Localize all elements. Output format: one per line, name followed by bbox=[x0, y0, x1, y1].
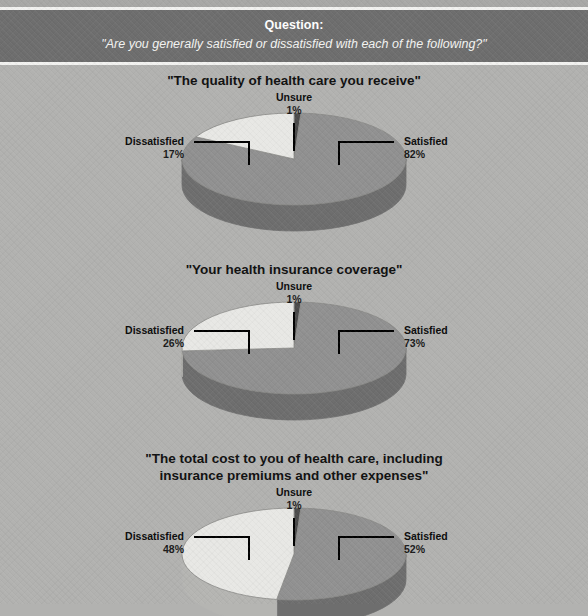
callout-dissatisfied-quality: Dissatisfied 17% bbox=[86, 135, 184, 161]
pie-area-quality: Unsure 1% Dissatisfied 17% Satisfied 82% bbox=[0, 91, 588, 261]
leader-dissatisfied-h-total-cost bbox=[194, 536, 250, 538]
callout-unsure-label: Unsure bbox=[276, 91, 312, 103]
callout-satisfied-label: Satisfied bbox=[404, 324, 448, 336]
callout-dissatisfied-label: Dissatisfied bbox=[125, 530, 184, 542]
leader-satisfied-v-total-cost bbox=[338, 536, 340, 560]
leader-dissatisfied-h-insurance bbox=[194, 330, 250, 332]
callout-satisfied-value: 73% bbox=[404, 337, 502, 350]
chart-block-total-cost: "The total cost to you of health care, i… bbox=[0, 450, 588, 616]
leader-satisfied-h-insurance bbox=[338, 330, 394, 332]
pie-area-total-cost: Unsure 1% Dissatisfied 48% Satisfied 52% bbox=[0, 486, 588, 616]
callout-unsure-insurance: Unsure 1% bbox=[262, 280, 326, 306]
leader-dissatisfied-v-total-cost bbox=[248, 536, 250, 560]
chart-title-insurance: "Your health insurance coverage" bbox=[0, 261, 588, 280]
callout-dissatisfied-value: 26% bbox=[86, 337, 184, 350]
leader-dissatisfied-v-quality bbox=[248, 141, 250, 165]
charts-container: "The quality of health care you receive"… bbox=[0, 72, 588, 616]
callout-dissatisfied-value: 17% bbox=[86, 148, 184, 161]
callout-unsure-quality: Unsure 1% bbox=[262, 91, 326, 117]
callout-satisfied-value: 82% bbox=[404, 148, 502, 161]
chart-title-total-cost-line1: "The total cost to you of health care, i… bbox=[0, 450, 588, 467]
callout-dissatisfied-label: Dissatisfied bbox=[125, 135, 184, 147]
callout-dissatisfied-label: Dissatisfied bbox=[125, 324, 184, 336]
header-top-spacer bbox=[0, 0, 588, 7]
chart-title-quality: "The quality of health care you receive" bbox=[0, 72, 588, 91]
chart-block-insurance: "Your health insurance coverage" Unsure … bbox=[0, 261, 588, 450]
leader-satisfied-v-quality bbox=[338, 141, 340, 165]
callout-unsure-label: Unsure bbox=[276, 280, 312, 292]
pie-area-insurance: Unsure 1% Dissatisfied 26% Satisfied 73% bbox=[0, 280, 588, 450]
callout-unsure-label: Unsure bbox=[276, 486, 312, 498]
callout-satisfied-value: 52% bbox=[404, 543, 502, 556]
leader-dissatisfied-v-insurance bbox=[248, 330, 250, 354]
leader-satisfied-v-insurance bbox=[338, 330, 340, 354]
leader-dissatisfied-h-quality bbox=[194, 141, 250, 143]
callout-satisfied-label: Satisfied bbox=[404, 530, 448, 542]
leader-satisfied-h-total-cost bbox=[338, 536, 394, 538]
callout-unsure-total-cost: Unsure 1% bbox=[262, 486, 326, 512]
leader-unsure-quality bbox=[293, 123, 295, 151]
chart-title-total-cost-line2: insurance premiums and other expenses" bbox=[0, 467, 588, 484]
callout-unsure-value: 1% bbox=[262, 293, 326, 306]
header-band: Question: "Are you generally satisfied o… bbox=[0, 10, 588, 62]
callout-satisfied-insurance: Satisfied 73% bbox=[404, 324, 502, 350]
callout-satisfied-total-cost: Satisfied 52% bbox=[404, 530, 502, 556]
header-banner: Question: "Are you generally satisfied o… bbox=[0, 0, 588, 65]
leader-unsure-insurance bbox=[293, 312, 295, 340]
leader-satisfied-h-quality bbox=[338, 141, 394, 143]
callout-dissatisfied-value: 48% bbox=[86, 543, 184, 556]
question-label: Question: bbox=[0, 17, 588, 33]
header-rule-bottom bbox=[0, 62, 588, 65]
callout-unsure-value: 1% bbox=[262, 104, 326, 117]
chart-block-quality: "The quality of health care you receive"… bbox=[0, 72, 588, 261]
callout-dissatisfied-insurance: Dissatisfied 26% bbox=[86, 324, 184, 350]
callout-satisfied-label: Satisfied bbox=[404, 135, 448, 147]
question-text: "Are you generally satisfied or dissatis… bbox=[0, 33, 588, 53]
callout-dissatisfied-total-cost: Dissatisfied 48% bbox=[86, 530, 184, 556]
chart-title-total-cost: "The total cost to you of health care, i… bbox=[0, 450, 588, 486]
leader-unsure-total-cost bbox=[293, 518, 295, 546]
callout-satisfied-quality: Satisfied 82% bbox=[404, 135, 502, 161]
callout-unsure-value: 1% bbox=[262, 499, 326, 512]
